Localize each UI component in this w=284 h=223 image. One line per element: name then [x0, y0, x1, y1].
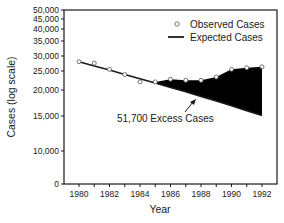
annotation-arrow: [185, 102, 193, 112]
x-tick-label: 1990: [222, 189, 241, 199]
x-tick-label: 1984: [131, 189, 150, 199]
legend-expected-label: Expected Cases: [190, 32, 263, 43]
y-tick-label: 40,000: [33, 24, 59, 34]
y-tick-label: 35,000: [33, 36, 59, 46]
excess-cases-chart: 50,00045,00040,00035,00030,00025,00020,0…: [0, 0, 284, 223]
y-tick-label: 25,000: [33, 66, 59, 76]
observed-point: [260, 65, 264, 69]
x-tick-label: 1982: [100, 189, 119, 199]
legend-observed-label: Observed Cases: [190, 19, 264, 30]
y-tick-label: 45,000: [33, 14, 59, 24]
y-axis: 50,00045,00040,00035,00030,00025,00020,0…: [33, 5, 64, 189]
observed-point: [92, 61, 96, 65]
observed-point: [245, 66, 249, 70]
y-tick-label: 30,000: [33, 51, 59, 61]
x-axis: 1980198219841986198819901992: [70, 184, 272, 199]
shaded-polygon: [149, 67, 262, 116]
x-axis-title: Year: [149, 203, 171, 215]
observed-point: [108, 67, 112, 71]
observed-point: [184, 78, 188, 82]
x-tick-label: 1980: [70, 189, 89, 199]
observed-point: [77, 60, 81, 64]
y-tick-label: 20,000: [33, 85, 59, 95]
x-tick-label: 1988: [192, 189, 211, 199]
excess-cases-annotation: 51,700 Excess Cases: [117, 113, 214, 124]
observed-point: [199, 78, 203, 82]
y-tick-label: 0: [54, 179, 59, 189]
observed-point: [230, 67, 234, 71]
excess-cases-shaded-area: [149, 67, 262, 116]
observed-point: [138, 80, 142, 84]
y-axis-title: Cases (log scale): [5, 56, 17, 137]
y-tick-label: 15,000: [33, 111, 59, 121]
legend: Observed Cases Expected Cases: [168, 19, 264, 43]
observed-marker-icon: [175, 22, 179, 26]
observed-point: [214, 75, 218, 79]
observed-point: [153, 80, 157, 84]
observed-point: [123, 72, 127, 76]
observed-point: [169, 77, 173, 81]
x-tick-label: 1986: [161, 189, 180, 199]
y-tick-label: 10,000: [33, 146, 59, 156]
x-tick-label: 1992: [253, 189, 272, 199]
